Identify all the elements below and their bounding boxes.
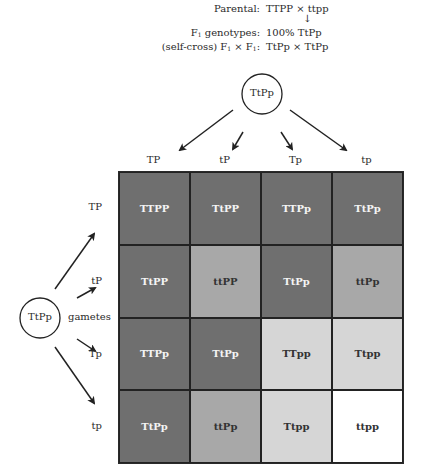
punnett-cell-r2-c3: TtPp <box>261 245 332 318</box>
punnett-cell-r4-c4: ttpp <box>332 390 403 463</box>
column-gamete-tp: tp <box>331 154 402 165</box>
arrow-left-to-tP <box>77 288 95 298</box>
arrow-top-to-TP <box>180 110 233 150</box>
punnett-cell-r3-c4: Ttpp <box>332 318 403 391</box>
arrow-top-to-Tp <box>281 132 292 149</box>
punnett-cell-r4-c2: ttPp <box>190 390 261 463</box>
punnett-cell-r1-c3: TTPp <box>261 172 332 245</box>
column-gamete-tP: tP <box>189 154 260 165</box>
punnett-cell-r2-c4: ttPp <box>332 245 403 318</box>
punnett-cell-r3-c1: TTPp <box>119 318 190 391</box>
punnett-cell-r3-c2: TtPp <box>190 318 261 391</box>
row-gamete-TP: TP <box>72 201 102 212</box>
punnett-cell-r4-c1: TtPp <box>119 390 190 463</box>
punnett-cell-r1-c2: TtPP <box>190 172 261 245</box>
punnett-square: TTPP TtPP TTPp TtPp TtPP ttPP TtPp ttPp … <box>118 171 404 464</box>
punnett-cell-r2-c2: ttPP <box>190 245 261 318</box>
row-gamete-tP: tP <box>72 275 102 286</box>
arrow-top-to-tP <box>233 132 243 149</box>
column-gamete-Tp: Tp <box>260 154 331 165</box>
punnett-cell-r1-c1: TTPP <box>119 172 190 245</box>
punnett-cell-r2-c1: TtPP <box>119 245 190 318</box>
punnett-cell-r3-c3: TTpp <box>261 318 332 391</box>
arrow-top-to-tp <box>290 110 346 150</box>
column-gamete-TP: TP <box>118 154 189 165</box>
gametes-label: gametes <box>68 311 111 322</box>
row-gamete-tp: tp <box>72 420 102 431</box>
punnett-cell-r4-c3: Ttpp <box>261 390 332 463</box>
left-parent-genotype: TtPp <box>20 311 60 322</box>
punnett-cell-r1-c4: TtPp <box>332 172 403 245</box>
top-parent-genotype: TtPp <box>242 87 282 98</box>
row-gamete-Tp: Tp <box>72 348 102 359</box>
